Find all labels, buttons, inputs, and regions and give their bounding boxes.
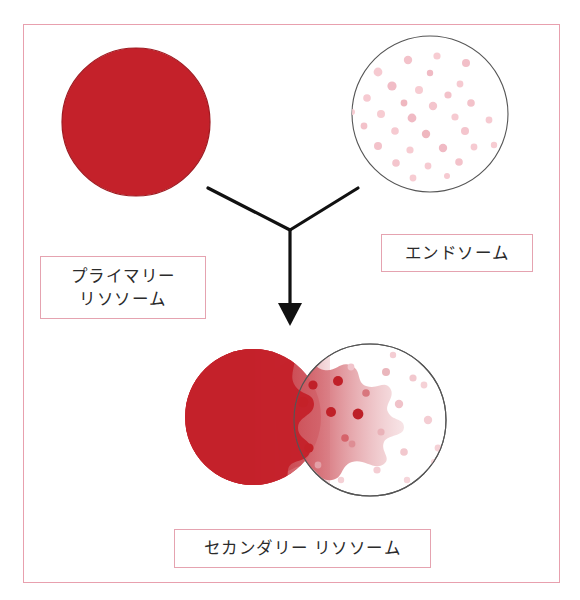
endosome-dot [425,163,432,170]
secondary-lysosome-dot [421,382,428,389]
endosome-dot [462,59,470,67]
secondary-lysosome-dot [362,389,370,397]
secondary-lysosome-dot [349,441,356,448]
endosome-dot [361,123,368,130]
endosome-dot [461,127,469,135]
endosome-dot [422,130,430,138]
secondary-lysosome-dot [353,409,364,420]
endosome-dot [444,91,451,98]
lysosome-fusion-figure: プライマリー リソソーム エンドソーム セカンダリー リソソーム [0,0,580,600]
secondary-lysosome-dot [333,376,343,386]
secondary-lysosome-dot [424,416,432,424]
endosome-dot [387,81,396,90]
endosome-dot [392,159,400,167]
secondary-lysosome-dot [400,448,408,456]
secondary-lysosome-group [185,344,446,496]
arrow-left-branch [208,188,290,230]
secondary-lysosome-dot [308,380,317,389]
endosome-group [349,36,508,192]
secondary-lysosome-dot [382,368,390,376]
endosome-dot [455,158,463,166]
endosome-dot [374,142,382,150]
endosome-dot [457,81,464,88]
label-secondary-lysosome: セカンダリー リソソーム [174,529,431,568]
secondary-lysosome-dot [341,434,349,442]
endosome-dot [410,175,417,182]
endosome-dot [404,56,412,64]
secondary-lysosome-dot [315,462,322,469]
secondary-lysosome-dot [404,477,410,483]
endosome-dot [374,68,383,77]
endosome-dot [471,144,478,151]
label-secondary-lysosome-text: セカンダリー リソソーム [204,537,402,560]
endosome-dot [408,114,417,123]
secondary-lysosome-dot [373,466,380,473]
endosome-dot [429,102,437,110]
fusion-arrow [208,188,358,326]
endosome-dot [401,100,408,107]
secondary-lysosome-dot [298,397,308,407]
endosome-dot [467,99,475,107]
secondary-lysosome-dot [390,352,396,358]
secondary-lysosome-dot [326,407,336,417]
endosome-dot [486,117,493,124]
endosome-dot [377,110,385,118]
endosome-dot [451,113,458,120]
arrow-head-icon [278,303,302,326]
arrow-right-branch [290,188,358,230]
endosome-dot [439,144,447,152]
secondary-lysosome-dot [377,428,384,435]
label-endosome: エンドソーム [381,234,533,272]
endosome-dot [444,173,450,179]
endosome-dot [433,52,440,59]
endosome-dot [391,127,399,135]
endosome-dot [491,142,497,148]
primary-lysosome-circle [62,48,210,196]
secondary-lysosome-dot [409,374,416,381]
secondary-lysosome-dot [338,477,344,483]
label-endosome-text: エンドソーム [405,242,510,265]
secondary-lysosome-dot [304,443,313,452]
endosome-dot [406,146,413,153]
primary-lysosome-group [62,48,210,196]
endosome-dot [363,94,371,102]
endosome-dot [427,70,433,76]
label-primary-lysosome: プライマリー リソソーム [40,256,206,319]
secondary-lysosome-dot [348,364,355,371]
label-primary-lysosome-text: プライマリー リソソーム [71,265,176,311]
endosome-dot [415,86,423,94]
secondary-lysosome-dot [395,400,403,408]
